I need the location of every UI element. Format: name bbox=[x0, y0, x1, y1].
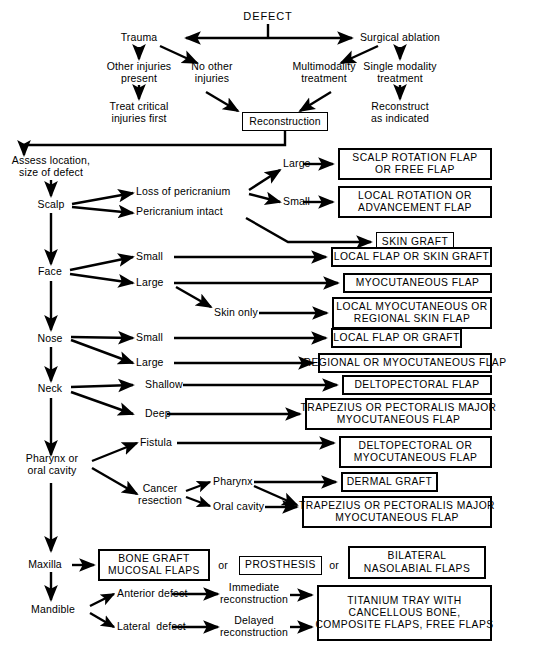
box-trapezius-pectoralis-oral: TRAPEZIUS OR PECTORALIS MAJOR MYOCUTANEO… bbox=[302, 496, 492, 528]
node-face-small: Small bbox=[136, 251, 163, 263]
box-titanium-tray: TITANIUM TRAY WITH CANCELLOUS BONE, COMP… bbox=[317, 585, 492, 641]
box-local-flap-or-skin-graft: LOCAL FLAP OR SKIN GRAFT bbox=[331, 247, 492, 267]
box-dermal-graft: DERMAL GRAFT bbox=[341, 472, 438, 492]
node-reconstruct-as-indicated: Reconstruct as indicated bbox=[371, 101, 429, 124]
node-pharynx-or-oral-cavity: Pharynx or oral cavity bbox=[26, 453, 78, 476]
node-neck-shallow: Shallow bbox=[145, 379, 183, 391]
node-immediate-reconstruction: Immediate reconstruction bbox=[220, 582, 288, 605]
node-assess-location: Assess location, size of defect bbox=[12, 155, 90, 178]
label-or-2: or bbox=[329, 560, 339, 572]
box-trapezius-pectoralis-neck: TRAPEZIUS OR PECTORALIS MAJOR MYOCUTANEO… bbox=[305, 398, 492, 430]
box-deltopectoral-or-myocutaneous: DELTOPECTORAL OR MYOCUTANEOUS FLAP bbox=[339, 436, 492, 468]
box-reconstruction: Reconstruction bbox=[242, 112, 328, 131]
box-local-flap-or-graft: LOCAL FLAP OR GRAFT bbox=[331, 328, 462, 348]
node-other-injuries: Other injuries present bbox=[107, 61, 172, 84]
node-maxilla: Maxilla bbox=[28, 559, 62, 571]
node-pericranium-intact: Pericranium intact bbox=[136, 206, 223, 218]
node-face: Face bbox=[38, 266, 62, 278]
node-nose-large: Large bbox=[136, 357, 164, 369]
node-face-large: Large bbox=[136, 277, 164, 289]
box-local-rotation-flap: LOCAL ROTATION OR ADVANCEMENT FLAP bbox=[338, 186, 492, 218]
node-scalp-small: Small bbox=[283, 196, 310, 208]
node-single-modality-treatment: Single modality treatment bbox=[363, 61, 436, 84]
node-cancer-resection: Cancer resection bbox=[138, 483, 182, 506]
node-mandible: Mandible bbox=[31, 604, 75, 616]
node-neck: Neck bbox=[38, 383, 63, 395]
node-cancer-oral-cavity: Oral cavity bbox=[213, 501, 264, 513]
node-defect: DEFECT bbox=[243, 11, 292, 23]
box-regional-or-myocutaneous-flap: REGIONAL OR MYOCUTANEOUS FLAP bbox=[318, 353, 492, 373]
node-skin-only: Skin only bbox=[214, 307, 258, 319]
box-bilateral-nasolabial-flaps: BILATERAL NASOLABIAL FLAPS bbox=[348, 546, 486, 579]
node-nose: Nose bbox=[37, 333, 62, 345]
node-anterior-defect: Anterior defect bbox=[117, 588, 188, 600]
label-or-1: or bbox=[218, 560, 228, 572]
node-delayed-reconstruction: Delayed reconstruction bbox=[220, 615, 288, 638]
node-multimodality-treatment: Multimodality treatment bbox=[292, 61, 355, 84]
flowchart-diagram: DEFECT Trauma Surgical ablation Other in… bbox=[0, 0, 541, 655]
node-lateral-defect: Lateral defect bbox=[117, 621, 186, 633]
node-surgical-ablation: Surgical ablation bbox=[360, 32, 440, 44]
node-scalp-large: Large bbox=[283, 158, 311, 170]
box-bone-graft-mucosal-flaps: BONE GRAFT MUCOSAL FLAPS bbox=[98, 549, 210, 581]
box-local-myocutaneous-regional-skin-flap: LOCAL MYOCUTANEOUS OR REGIONAL SKIN FLAP bbox=[332, 297, 492, 329]
node-loss-of-pericranium: Loss of pericranium bbox=[136, 186, 230, 198]
box-scalp-rotation-flap: SCALP ROTATION FLAP OR FREE FLAP bbox=[338, 148, 492, 180]
node-fistula: Fistula bbox=[140, 437, 172, 449]
node-treat-critical-injuries: Treat critical injuries first bbox=[110, 101, 169, 124]
box-myocutaneous-flap: MYOCUTANEOUS FLAP bbox=[343, 273, 492, 293]
box-prosthesis: PROSTHESIS bbox=[239, 556, 322, 575]
node-nose-small: Small bbox=[136, 332, 163, 344]
box-deltopectoral-flap: DELTOPECTORAL FLAP bbox=[342, 375, 492, 395]
node-scalp: Scalp bbox=[37, 199, 64, 211]
node-cancer-pharynx: Pharynx bbox=[213, 476, 253, 488]
node-neck-deep: Deep bbox=[145, 408, 171, 420]
node-trauma: Trauma bbox=[121, 32, 158, 44]
node-no-other-injuries: No other injuries bbox=[191, 61, 232, 84]
